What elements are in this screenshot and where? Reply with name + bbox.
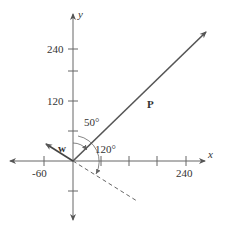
dashed-reference-line: [73, 161, 137, 201]
vector-p-label: P: [147, 98, 154, 110]
angle-label-50: 50°: [84, 116, 99, 128]
x-axis-label: x: [207, 148, 213, 160]
y-tick-label-120: 120: [47, 95, 64, 107]
vector-diagram: y x 240 120 -60 240 50° 120° P w: [0, 0, 226, 227]
x-axis: [10, 156, 205, 166]
vector-w-label: w: [58, 142, 66, 154]
vector-p: [73, 32, 206, 161]
y-axis-label: y: [77, 8, 83, 20]
x-tick-label-240: 240: [176, 167, 193, 179]
angle-label-120: 120°: [95, 143, 116, 155]
y-tick-label-240: 240: [47, 43, 64, 55]
x-tick-label-neg60: -60: [32, 167, 47, 179]
y-axis: [68, 14, 78, 220]
angle-arc-120: [78, 136, 99, 174]
